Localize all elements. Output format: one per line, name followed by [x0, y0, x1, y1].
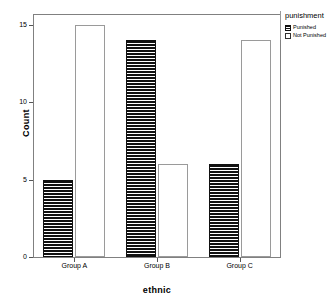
bar-group-c-not-punished[interactable]: [241, 40, 271, 257]
y-axis-tick-mark: [29, 180, 33, 181]
y-axis-tick-label: 0: [23, 253, 27, 261]
bar-chart: Count 051015 Group AGroup BGroup C ethni…: [0, 0, 335, 303]
x-axis-category-label: Group A: [39, 261, 109, 270]
legend-label-punished: Punished: [293, 24, 316, 31]
legend: punishment Punished Not Punished: [280, 11, 335, 40]
y-axis-tick-label: 5: [23, 176, 27, 184]
bar-group-a-punished[interactable]: [43, 180, 73, 257]
y-axis-tick-mark: [29, 257, 33, 258]
y-axis-tick-mark: [29, 25, 33, 26]
bar-group-b-not-punished[interactable]: [158, 164, 188, 257]
bar-group-c-punished[interactable]: [209, 164, 239, 257]
legend-label-not-punished: Not Punished: [293, 32, 326, 39]
legend-item-punished[interactable]: Punished: [285, 24, 335, 31]
y-axis-tick-mark: [29, 102, 33, 103]
legend-swatch-punished-icon: [285, 25, 291, 31]
x-axis-category-label: Group B: [122, 261, 192, 270]
bar-group-a-not-punished[interactable]: [75, 25, 105, 257]
bar-group-b-punished[interactable]: [126, 40, 156, 257]
legend-title: punishment: [285, 11, 335, 21]
x-axis-title: ethnic: [33, 285, 281, 295]
x-axis-category-label: Group C: [205, 261, 275, 270]
legend-swatch-not-punished-icon: [285, 33, 291, 39]
legend-item-not-punished[interactable]: Not Punished: [285, 32, 335, 39]
y-axis-tick-label: 15: [19, 21, 27, 29]
y-axis-tick-label: 10: [19, 98, 27, 106]
